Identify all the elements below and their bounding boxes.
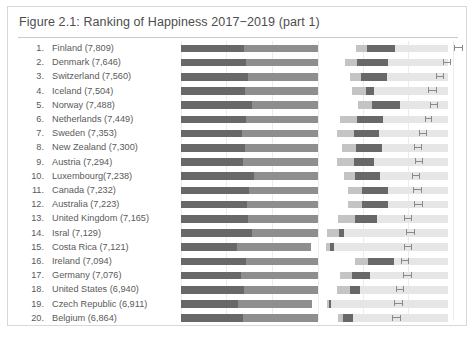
right-bar-light-segment	[356, 45, 367, 53]
right-bar-dark-segment	[330, 243, 334, 251]
row-left-bar	[181, 272, 318, 280]
left-bar-mid-segment	[244, 45, 318, 53]
right-bar-light-segment	[344, 172, 355, 180]
right-bar-faint-segment	[327, 229, 448, 237]
row-left-bar	[181, 130, 318, 138]
left-bar-dark-segment	[181, 201, 247, 209]
left-bar-mid-segment	[252, 229, 318, 237]
right-bar-dark-segment	[362, 201, 388, 209]
right-bar-light-segment	[355, 258, 368, 266]
left-bar-dark-segment	[181, 144, 245, 152]
left-bar-mid-segment	[245, 144, 318, 152]
left-bar-mid-segment	[244, 286, 318, 294]
right-bar-dark-segment	[366, 87, 374, 95]
row-rank: 7.	[22, 126, 44, 140]
row-country-label: Isral (7,129)	[52, 226, 101, 240]
right-bar-light-segment	[352, 87, 366, 95]
row-rank: 12.	[22, 197, 44, 211]
row-right-bar	[326, 130, 448, 138]
row-country-label: United States (6,940)	[52, 282, 139, 296]
row-left-bar	[181, 144, 318, 152]
left-bar-dark-segment	[181, 229, 252, 237]
row-error-bar	[413, 189, 422, 190]
row-left-bar	[181, 258, 318, 266]
chart-row: 5.Norway (7,488)	[8, 98, 466, 112]
right-bar-dark-segment	[361, 73, 387, 81]
left-bar-dark-segment	[181, 116, 246, 124]
chart-row: 16.Ireland (7,094)	[8, 254, 466, 268]
row-right-bar	[326, 314, 448, 322]
right-bar-dark-segment	[355, 215, 377, 223]
chart-row: 9.Austria (7,294)	[8, 155, 466, 169]
left-bar-mid-segment	[249, 187, 318, 195]
row-right-bar	[326, 286, 448, 294]
row-error-bar	[394, 303, 403, 304]
left-bar-dark-segment	[181, 286, 244, 294]
row-country-label: Iceland (7,504)	[52, 84, 113, 98]
title-divider	[18, 37, 458, 38]
row-rank: 9.	[22, 155, 44, 169]
row-right-bar	[326, 215, 448, 223]
row-rank: 6.	[22, 112, 44, 126]
row-error-bar	[454, 47, 463, 48]
left-bar-dark-segment	[181, 272, 241, 280]
row-error-bar	[430, 104, 438, 105]
row-rank: 1.	[22, 41, 44, 55]
row-error-bar	[412, 175, 420, 176]
left-bar-dark-segment	[181, 101, 252, 109]
chart-plot-area: 1.Finland (7,809)2.Denmark (7,646)3.Swit…	[8, 39, 466, 325]
chart-row: 18.United States (6,940)	[8, 282, 466, 296]
row-country-label: Finland (7,809)	[52, 41, 114, 55]
left-bar-dark-segment	[181, 187, 249, 195]
right-bar-dark-segment	[356, 144, 382, 152]
row-error-bar	[415, 161, 423, 162]
row-rank: 20.	[22, 311, 44, 325]
row-error-bar	[396, 289, 404, 290]
row-country-label: New Zealand (7,300)	[52, 140, 138, 154]
left-bar-dark-segment	[181, 130, 242, 138]
row-left-bar	[181, 229, 318, 237]
row-right-bar	[326, 187, 448, 195]
right-bar-light-segment	[350, 73, 361, 81]
left-bar-dark-segment	[181, 45, 244, 53]
figure-title: Figure 2.1: Ranking of Happiness 2017−20…	[19, 15, 320, 29]
row-rank: 15.	[22, 240, 44, 254]
row-error-bar	[392, 317, 401, 318]
row-left-bar	[181, 101, 318, 109]
chart-row: 2.Denmark (7,646)	[8, 55, 466, 69]
row-right-bar	[326, 59, 448, 67]
row-left-bar	[181, 172, 318, 180]
chart-row: 1.Finland (7,809)	[8, 41, 466, 55]
row-rank: 5.	[22, 98, 44, 112]
row-right-bar	[326, 272, 448, 280]
row-country-label: Belgium (6,864)	[52, 311, 117, 325]
row-error-bar	[404, 246, 412, 247]
row-rank: 3.	[22, 69, 44, 83]
right-bar-light-segment	[337, 130, 354, 138]
row-error-bar	[419, 133, 427, 134]
left-bar-dark-segment	[181, 172, 254, 180]
right-bar-light-segment	[327, 229, 339, 237]
chart-row: 15.Costa Rica (7,121)	[8, 240, 466, 254]
row-country-label: Ireland (7,094)	[52, 254, 112, 268]
row-country-label: Denmark (7,646)	[52, 55, 121, 69]
left-bar-dark-segment	[181, 59, 246, 67]
right-bar-dark-segment	[368, 258, 394, 266]
row-right-bar	[326, 144, 448, 152]
row-right-bar	[326, 243, 448, 251]
figure-panel: Figure 2.1: Ranking of Happiness 2017−20…	[7, 6, 467, 326]
row-error-bar	[428, 90, 437, 91]
chart-row: 4.Iceland (7,504)	[8, 84, 466, 98]
chart-row: 14.Isral (7,129)	[8, 226, 466, 240]
right-bar-faint-segment	[326, 243, 448, 251]
right-bar-dark-segment	[339, 229, 344, 237]
right-bar-dark-segment	[354, 130, 379, 138]
left-bar-dark-segment	[181, 87, 245, 95]
row-rank: 17.	[22, 268, 44, 282]
row-country-label: Norway (7,488)	[52, 98, 115, 112]
row-rank: 2.	[22, 55, 44, 69]
row-country-label: Austria (7,294)	[52, 155, 112, 169]
row-country-label: Germany (7,076)	[52, 268, 121, 282]
right-bar-light-segment	[337, 158, 354, 166]
right-bar-light-segment	[337, 286, 350, 294]
